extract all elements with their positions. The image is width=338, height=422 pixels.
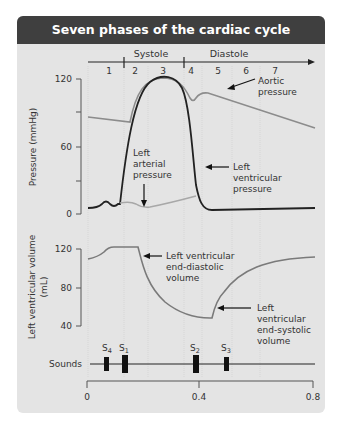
phase-label-4: 4 xyxy=(188,66,194,76)
systole-label: Systole xyxy=(134,48,169,59)
phase-label-2: 2 xyxy=(132,66,138,76)
ventricular-pressure-label-1: Left xyxy=(233,162,250,172)
esv-label-1: Left xyxy=(257,303,274,313)
atrial-pressure-label-1: Left xyxy=(133,148,150,158)
volume-tick-120: 120 xyxy=(55,244,72,254)
pressure-tick-120: 120 xyxy=(55,74,72,84)
time-axis xyxy=(87,381,313,388)
diastole-label: Diastole xyxy=(210,48,249,59)
phase-axis: Systole Diastole 1 2 3 4 5 6 7 xyxy=(88,48,315,76)
pressure-axis-label: Pressure (mmHg) xyxy=(28,108,38,186)
esv-arrow xyxy=(217,305,251,311)
phase-label-3: 3 xyxy=(160,66,166,76)
sound-s3-label: S3 xyxy=(221,343,231,355)
pressure-tick-0: 0 xyxy=(66,209,72,219)
volume-axis-label-1: Left ventricular volume xyxy=(27,234,37,339)
edv-label-3: volume xyxy=(166,273,200,283)
volume-axis xyxy=(76,249,81,326)
esv-label-4: volume xyxy=(257,336,291,346)
aortic-pressure-label-2: pressure xyxy=(258,87,297,97)
esv-label-3: end-systolic xyxy=(257,325,311,335)
phase-label-1: 1 xyxy=(106,66,112,76)
pressure-axis xyxy=(76,79,81,214)
edv-label-1: Left ventricular xyxy=(166,251,235,261)
phase-label-6: 6 xyxy=(243,66,249,76)
phase-gridlines xyxy=(88,66,260,378)
sound-s2-bar xyxy=(193,355,199,373)
ventricular-pressure-arrow xyxy=(205,164,229,170)
atrial-pressure-label-3: pressure xyxy=(133,170,172,180)
sound-s3-bar xyxy=(224,357,229,371)
left-atrial-pressure-curve xyxy=(120,196,196,207)
sound-s1-bar xyxy=(122,355,128,373)
volume-tick-80: 80 xyxy=(61,283,73,293)
phase-label-5: 5 xyxy=(215,66,221,76)
esv-label-2: ventricular xyxy=(257,314,306,324)
pressure-tick-60: 60 xyxy=(61,142,73,152)
time-tick-0-4: 0.4 xyxy=(192,392,207,402)
sound-s1-label: S1 xyxy=(119,343,129,355)
cardiac-cycle-diagram: Systole Diastole 1 2 3 4 5 6 7 120 60 0 … xyxy=(0,0,338,422)
edv-arrow xyxy=(143,253,162,259)
volume-axis-label-2: (mL) xyxy=(39,277,49,298)
ventricular-pressure-label-3: pressure xyxy=(233,184,272,194)
atrial-pressure-label-2: arterial xyxy=(133,159,166,169)
aortic-pressure-arrow xyxy=(227,79,255,90)
sounds-label: Sounds xyxy=(49,359,82,369)
atrial-pressure-arrow xyxy=(141,184,147,207)
phase-label-7: 7 xyxy=(272,66,278,76)
aortic-pressure-label-1: Aortic xyxy=(258,76,284,86)
ventricular-pressure-label-2: ventricular xyxy=(233,173,282,183)
sound-s4-bar xyxy=(104,357,109,371)
time-tick-0: 0 xyxy=(84,392,90,402)
sound-s2-label: S2 xyxy=(190,343,200,355)
volume-tick-40: 40 xyxy=(61,321,73,331)
edv-label-2: end-diastolic xyxy=(166,262,224,272)
sound-s4-label: S4 xyxy=(102,343,112,355)
time-tick-0-8: 0.8 xyxy=(306,392,321,402)
